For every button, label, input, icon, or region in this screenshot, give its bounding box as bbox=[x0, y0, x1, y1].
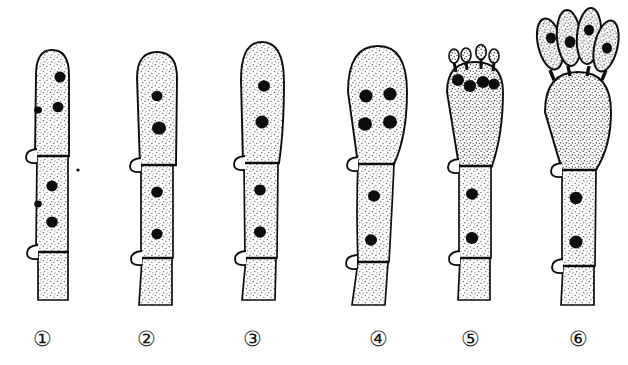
stage-5-basidium bbox=[447, 45, 503, 300]
stage-2-subapical-cell bbox=[141, 165, 173, 258]
stage-5-nucleus-sub-2 bbox=[466, 232, 478, 244]
stage-1-ink-speck bbox=[76, 168, 79, 171]
stage-1-clamp-lower bbox=[27, 245, 38, 259]
stage-1-nucleus-sub-2 bbox=[46, 216, 58, 227]
stage-3-clamp-upper bbox=[234, 156, 245, 170]
stage-6-sterigma-3 bbox=[587, 66, 589, 76]
stage-4-subapical-cell bbox=[357, 164, 394, 262]
stage-4-nucleus-sub-2 bbox=[365, 234, 377, 246]
stage-1-nucleus-apical-2 bbox=[53, 102, 64, 112]
stage-5-nucleus-apical-3 bbox=[477, 76, 489, 88]
stage-4-basal-segment bbox=[352, 262, 388, 305]
stage-6-sterigma-1 bbox=[550, 70, 554, 80]
stage-6-subapical-cell bbox=[562, 170, 596, 266]
stage-5-basal-segment bbox=[458, 258, 490, 300]
stage-1-side-nucleus bbox=[34, 106, 42, 113]
stage-3-subapical-cell bbox=[244, 163, 278, 258]
stage-1-clamp-upper bbox=[26, 149, 37, 163]
stage-2-clamp-upper bbox=[130, 158, 141, 172]
stage-4-apical-cell bbox=[348, 46, 407, 164]
stage-label-2: ② bbox=[126, 326, 166, 352]
stage-4-clamp-lower bbox=[346, 255, 357, 269]
stage-6-basidiospores-group bbox=[532, 7, 623, 74]
stage-2-nucleus-sub-1 bbox=[151, 186, 163, 197]
stage-1-nucleus-apical-1 bbox=[55, 72, 66, 83]
stage-3-clamp-lower bbox=[235, 251, 246, 265]
stage-6-spore-1-nucleus bbox=[546, 32, 556, 43]
stage-5-spore-1 bbox=[449, 49, 459, 63]
stage-label-1: ① bbox=[22, 326, 62, 352]
illustration-canvas bbox=[0, 0, 628, 365]
stage-3-basal-segment bbox=[242, 258, 276, 300]
stage-4-basidium bbox=[346, 46, 407, 305]
stage-3-nucleus-apical-2 bbox=[255, 116, 268, 129]
basidium-development-figure: ① ② ③ ④ ⑤ ⑥ bbox=[0, 0, 628, 365]
stage-3-basidium bbox=[234, 42, 284, 300]
stage-1-side-nucleus-lower bbox=[34, 201, 42, 208]
stage-5-spore-2 bbox=[461, 48, 471, 62]
stage-5-nucleus-apical-1 bbox=[452, 74, 464, 86]
stage-label-4: ④ bbox=[358, 326, 398, 352]
stage-6-nucleus-sub-1 bbox=[570, 192, 583, 204]
stage-2-clamp-lower bbox=[131, 251, 142, 265]
stage-6-spore-3-nucleus bbox=[584, 24, 594, 35]
stage-4-nucleus-apical-2 bbox=[383, 88, 396, 101]
stage-6-basidium bbox=[532, 7, 623, 305]
stage-4-nucleus-apical-4 bbox=[383, 115, 397, 129]
stage-2-nucleus-sub-2 bbox=[151, 229, 162, 240]
stage-label-3: ③ bbox=[232, 326, 272, 352]
stage-4-nucleus-apical-1 bbox=[359, 90, 372, 103]
stage-2-apical-cell bbox=[137, 52, 177, 165]
stage-3-nucleus-sub-2 bbox=[254, 226, 266, 238]
stage-5-spore-3 bbox=[476, 45, 486, 60]
stage-6-basal-segment bbox=[561, 266, 594, 305]
stage-6-spore-4-nucleus bbox=[602, 42, 612, 53]
stage-4-nucleus-sub-1 bbox=[368, 190, 380, 202]
stage-5-subapical-cell bbox=[459, 166, 491, 258]
stage-5-clamp-upper bbox=[448, 159, 459, 173]
stage-2-basidium bbox=[130, 52, 177, 305]
stage-1-basal-segment bbox=[38, 252, 68, 300]
stage-3-nucleus-sub-1 bbox=[254, 184, 266, 195]
stage-5-spore-4 bbox=[489, 49, 499, 63]
stage-6-clamp-upper bbox=[551, 163, 562, 177]
stage-3-nucleus-apical-1 bbox=[258, 80, 270, 92]
stage-5-nucleus-apical-4 bbox=[488, 78, 499, 89]
stage-4-clamp-upper bbox=[347, 157, 358, 171]
stage-6-clamp-lower bbox=[552, 259, 563, 273]
stage-1-basidium bbox=[26, 50, 80, 300]
stage-1-apical-cell bbox=[35, 50, 69, 156]
stage-2-nucleus-apical-2 bbox=[152, 121, 166, 134]
stage-5-clamp-lower bbox=[449, 251, 460, 265]
stage-5-nucleus-sub-1 bbox=[466, 188, 478, 200]
stage-6-spore-2-nucleus bbox=[565, 36, 576, 48]
stage-6-nucleus-sub-2 bbox=[569, 236, 582, 249]
stage-3-apical-cell bbox=[241, 42, 284, 163]
stage-5-nucleus-apical-2 bbox=[464, 80, 476, 92]
stage-2-nucleus-apical-1 bbox=[152, 91, 163, 102]
stage-6-sterigma-2 bbox=[568, 66, 570, 76]
stage-6-apical-cell bbox=[545, 72, 611, 170]
stage-label-5: ⑤ bbox=[450, 326, 490, 352]
stage-4-nucleus-apical-3 bbox=[358, 117, 372, 131]
stage-1-nucleus-sub-1 bbox=[46, 181, 57, 192]
stage-2-basal-segment bbox=[139, 258, 172, 305]
stage-label-6: ⑥ bbox=[558, 326, 598, 352]
